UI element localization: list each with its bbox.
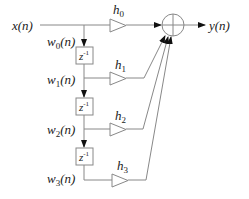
state-w2: w2(n) [47, 122, 75, 139]
h2-to-sum [126, 37, 168, 129]
input-label: x(n) [11, 18, 33, 33]
coef-h2: h2 [115, 108, 126, 125]
gain-h0-icon [110, 19, 126, 32]
h1-to-sum [126, 36, 165, 78]
state-w0: w0(n) [47, 34, 75, 51]
state-w3: w3(n) [47, 171, 75, 188]
gain-h3-icon [112, 174, 128, 187]
state-w1: w1(n) [47, 72, 75, 89]
output-label: y(n) [207, 18, 230, 33]
coef-h3: h3 [117, 158, 129, 175]
fir-filter-diagram: x(n) h0 y(n) w0(n) z-1 w1(n) h1 z-1 w2(n… [0, 0, 249, 199]
coef-h0: h0 [113, 2, 125, 19]
coef-h1: h1 [115, 57, 126, 74]
h3-to-sum [128, 37, 171, 180]
